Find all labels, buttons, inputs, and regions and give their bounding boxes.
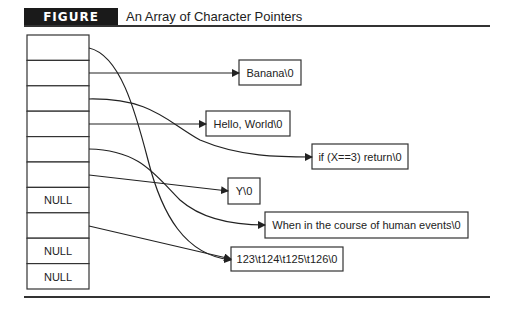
array-cell-7 bbox=[27, 213, 89, 238]
array-cell-3 bbox=[27, 111, 89, 136]
string-text-hello: Hello, World\0 bbox=[214, 118, 283, 130]
array-cell-4 bbox=[27, 137, 89, 162]
array-cell-5 bbox=[27, 162, 89, 187]
string-text-banana: Banana\0 bbox=[246, 67, 293, 79]
string-text-y: Y\0 bbox=[236, 185, 253, 197]
string-text-nums: 123\t124\t125\t126\0 bbox=[237, 253, 338, 265]
pointer-arrow-7 bbox=[89, 226, 231, 259]
array-cell-1 bbox=[27, 60, 89, 85]
null-label: NULL bbox=[44, 194, 72, 206]
string-text-when: When in the course of human events\0 bbox=[272, 219, 460, 231]
array-cell-0 bbox=[27, 35, 89, 60]
pointer-diagram: NULL NULL NULL Banana\0 Hello, World\0 i… bbox=[0, 0, 507, 311]
null-label: NULL bbox=[44, 271, 72, 283]
null-label: NULL bbox=[44, 245, 72, 257]
string-text-if: if (X==3) return\0 bbox=[318, 151, 401, 163]
pointer-arrow-0 bbox=[89, 48, 231, 260]
array-cell-2 bbox=[27, 86, 89, 111]
